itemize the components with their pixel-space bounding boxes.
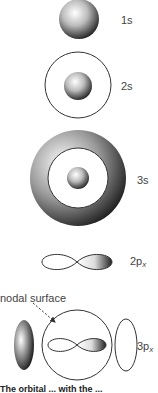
label-3px-sub: x: [149, 345, 153, 354]
label-2px: 2px: [130, 255, 146, 269]
caption: The orbital ... with the ...: [0, 384, 103, 393]
orbital-2s: [45, 52, 111, 118]
orbital-1s: [59, 0, 99, 39]
label-3px-main: 3p: [137, 340, 149, 352]
label-3px: 3px: [137, 340, 153, 354]
label-1s: 1s: [121, 14, 133, 26]
label-2px-sub: x: [142, 260, 146, 269]
label-2px-main: 2p: [130, 255, 142, 267]
label-nodal-surface: nodal surface: [0, 292, 66, 304]
label-3s: 3s: [137, 174, 149, 186]
orbital-2px: [42, 254, 112, 269]
orbital-3s: [30, 130, 126, 226]
orbital-diagram: [0, 0, 158, 393]
orbital-3px: [14, 310, 137, 380]
nodal-arrow: [33, 303, 55, 322]
label-2s: 2s: [121, 80, 133, 92]
